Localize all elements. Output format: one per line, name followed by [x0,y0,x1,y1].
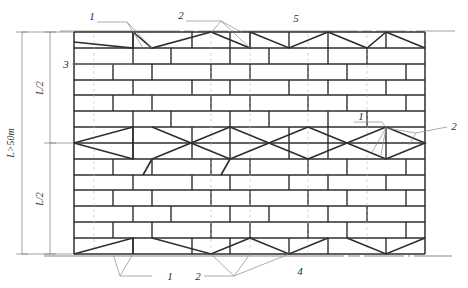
bottom-brace-band [74,238,425,254]
scaffold-grid [74,32,425,254]
diagonal-brace [328,32,386,48]
callout-label-left-three: 3 [62,58,69,70]
leader-line-top-one-b [127,22,143,48]
scaffolding-elevation-drawing: L>50m L/2 L/2 [0,0,468,288]
callout-label-bottom-two: 2 [195,270,201,282]
diagonal-brace [386,32,425,48]
leader-line-top-one [97,22,152,48]
dimension-label-half-top: L/2 [34,81,45,95]
diagonal-brace [74,32,133,48]
leader-line-top-two-b [221,21,250,48]
top-brace-band [74,32,425,48]
diagonal-brace [74,127,133,143]
diagonal-brace [221,159,230,175]
callout-label-bottom-one: 1 [167,270,173,282]
callout-label-right-two: 2 [451,120,457,132]
diagonal-brace [152,238,250,254]
callout-label-top-five: 5 [293,12,299,24]
callout-label-top-one: 1 [89,10,95,22]
diagram-page: L>50m L/2 L/2 [0,0,468,288]
dimension-label-half-bottom: L/2 [34,192,45,206]
leader-line-bottom-two [204,254,234,276]
callout-label-right-one: 1 [358,110,364,122]
diagonal-brace [143,159,152,175]
dimension-label-overall: L>50m [5,128,16,159]
leader-line-bottom-one-b [120,254,133,276]
leader-line-bottom-one [113,254,152,276]
diagonal-brace [74,238,133,254]
callout-label-bottom-four: 4 [297,265,303,277]
diagonal-brace [74,143,133,159]
callout-label-top-two: 2 [178,9,184,21]
